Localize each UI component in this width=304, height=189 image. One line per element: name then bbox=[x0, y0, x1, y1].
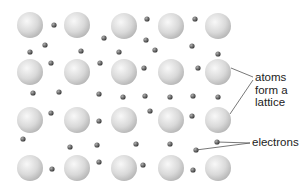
electron bbox=[48, 110, 53, 115]
atoms-label: atoms form a lattice bbox=[255, 71, 304, 109]
electron bbox=[167, 141, 172, 146]
electron bbox=[116, 49, 121, 54]
electron bbox=[120, 94, 125, 99]
electron bbox=[30, 90, 35, 95]
electron bbox=[214, 139, 219, 144]
atom bbox=[205, 107, 231, 133]
electron bbox=[195, 65, 200, 70]
electron bbox=[96, 118, 101, 123]
electron bbox=[189, 43, 194, 48]
electron bbox=[192, 16, 197, 21]
atom bbox=[17, 155, 43, 181]
electron bbox=[193, 147, 198, 152]
electron bbox=[215, 94, 220, 99]
atoms-leader-line bbox=[230, 80, 253, 114]
atom bbox=[17, 59, 43, 85]
electron bbox=[143, 37, 148, 42]
electron bbox=[142, 93, 147, 98]
atom bbox=[205, 155, 231, 181]
electrons-leader-line bbox=[217, 142, 250, 143]
electron bbox=[144, 16, 149, 21]
atom bbox=[64, 155, 90, 181]
electron bbox=[49, 166, 54, 171]
electron bbox=[97, 60, 102, 65]
atom bbox=[64, 12, 90, 38]
atom bbox=[205, 59, 231, 85]
electron bbox=[96, 159, 101, 164]
atom bbox=[17, 12, 43, 38]
electron bbox=[141, 65, 146, 70]
atom bbox=[111, 155, 137, 181]
electron bbox=[20, 136, 25, 141]
atom bbox=[111, 13, 137, 39]
atom bbox=[205, 13, 231, 39]
electron bbox=[101, 35, 106, 40]
electrons-leader-line bbox=[196, 143, 250, 150]
electron bbox=[147, 108, 152, 113]
atom bbox=[158, 155, 184, 181]
atom bbox=[158, 107, 184, 133]
electron bbox=[152, 47, 157, 52]
electron bbox=[78, 48, 83, 53]
electron bbox=[167, 94, 172, 99]
atom bbox=[17, 107, 43, 133]
electron bbox=[27, 49, 32, 54]
electron bbox=[51, 22, 56, 27]
electron bbox=[215, 51, 220, 56]
electrons-label: electrons bbox=[252, 136, 299, 149]
atom bbox=[158, 59, 184, 85]
atom bbox=[111, 107, 137, 133]
electron bbox=[56, 89, 61, 94]
atom bbox=[64, 107, 90, 133]
electron bbox=[67, 144, 72, 149]
atom bbox=[111, 59, 137, 85]
electron bbox=[140, 162, 145, 167]
electron bbox=[190, 167, 195, 172]
atom bbox=[158, 13, 184, 39]
electron bbox=[190, 93, 195, 98]
electron bbox=[189, 113, 194, 118]
atom bbox=[64, 59, 90, 85]
electron bbox=[96, 91, 101, 96]
electron bbox=[42, 42, 47, 47]
atoms-leader-line bbox=[231, 68, 253, 77]
electron bbox=[94, 142, 99, 147]
electron bbox=[133, 141, 138, 146]
electron bbox=[48, 60, 53, 65]
electrons-layer bbox=[20, 16, 220, 172]
